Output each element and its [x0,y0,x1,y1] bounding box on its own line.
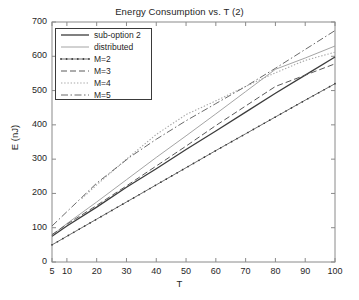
series-marker [133,197,135,199]
series-marker [100,216,102,218]
series-marker [67,235,69,237]
x-tick-label: 80 [262,266,288,276]
x-tick-label: 10 [54,266,80,276]
series-marker [95,219,97,221]
series-marker [291,107,293,109]
series-marker [165,178,167,180]
series-marker [62,238,64,240]
legend-label: M=2 [94,53,111,65]
plot-canvas [0,0,359,300]
series-marker [263,122,265,124]
y-tick-label: 500 [21,85,47,95]
legend-label: distributed [94,41,133,53]
y-tick-label: 300 [21,153,47,163]
y-tick-label: 200 [21,187,47,197]
series-marker [220,147,222,149]
series-marker [57,241,59,243]
legend-item-m-4[interactable]: M=4 [56,77,151,89]
series-marker [236,138,238,140]
series-marker [280,113,282,115]
series-marker [116,206,118,208]
x-tick-label: 90 [292,266,318,276]
series-marker [193,163,195,165]
series-marker [51,244,53,246]
series-marker [231,141,233,143]
legend-line-sample [60,41,90,53]
series-marker [171,175,173,177]
series-marker [214,150,216,152]
y-tick-label: 0 [21,256,47,266]
series-marker [187,166,189,168]
series-marker [155,185,157,187]
series-marker [269,119,271,121]
chart-legend: sub-option 2distributedM=2M=3M=4M=5 [55,28,152,100]
series-marker [329,86,331,88]
legend-item-sub-option-2[interactable]: sub-option 2 [56,29,151,41]
legend-item-m-2[interactable]: M=2 [56,53,151,65]
y-tick-label: 700 [21,16,47,26]
x-tick-label: 20 [84,266,110,276]
series-marker [176,172,178,174]
series-marker [144,191,146,193]
y-tick-label: 100 [21,222,47,232]
series-marker [204,156,206,158]
series-marker [253,129,255,131]
series-marker [160,181,162,183]
series-marker [89,222,91,224]
x-tick-label: 70 [233,266,259,276]
legend-line-sample [60,89,90,101]
x-tick-label: 30 [113,266,139,276]
legend-label: M=4 [94,77,111,89]
y-tick-label: 600 [21,50,47,60]
series-marker [73,231,75,233]
series-marker [225,144,227,146]
series-marker [258,125,260,127]
series-line-m-2 [52,84,335,245]
legend-line-sample [60,77,90,89]
series-marker [307,98,309,100]
series-marker [122,203,124,205]
series-marker [127,200,129,202]
series-marker [111,210,113,212]
legend-label: M=3 [94,65,111,77]
legend-label: M=5 [94,89,111,101]
legend-line-sample [60,65,90,77]
series-marker [106,213,108,215]
series-marker [318,92,320,94]
series-marker [247,132,249,134]
legend-label: sub-option 2 [94,29,141,41]
chart-figure: Energy Consumption vs. T (2) 70060050040… [0,0,359,300]
series-marker [274,116,276,118]
series-marker [182,169,184,171]
x-tick-label: 50 [173,266,199,276]
series-marker [296,104,298,106]
series-marker [323,89,325,91]
series-marker [84,225,86,227]
legend-item-m-3[interactable]: M=3 [56,65,151,77]
series-marker [334,83,336,85]
legend-line-sample [60,29,90,41]
series-marker [149,188,151,190]
series-marker [242,135,244,137]
series-marker [78,228,80,230]
x-tick-label: 100 [322,266,348,276]
y-tick-label: 400 [21,119,47,129]
series-marker [312,95,314,97]
x-tick-label: 40 [143,266,169,276]
series-marker [302,101,304,103]
series-marker [285,110,287,112]
series-marker [209,153,211,155]
legend-line-sample [60,53,90,65]
series-marker [198,159,200,161]
x-tick-label: 60 [203,266,229,276]
y-axis-label: E (nJ) [9,108,20,168]
series-marker [138,194,140,196]
legend-item-distributed[interactable]: distributed [56,41,151,53]
legend-item-m-5[interactable]: M=5 [56,89,151,101]
x-axis-label: T [0,278,359,289]
